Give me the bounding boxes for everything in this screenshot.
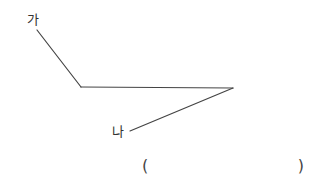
segment-horizontal <box>81 87 233 88</box>
answer-input-area[interactable] <box>154 155 292 177</box>
segment-right-vertex-to-na <box>130 88 233 131</box>
open-parenthesis: ( <box>142 155 148 177</box>
point-label-ga: 가 <box>27 13 39 26</box>
answer-blank: ( ) <box>142 155 308 177</box>
segment-ga-to-left-vertex <box>37 30 81 87</box>
point-label-na: 나 <box>112 125 124 138</box>
close-parenthesis: ) <box>298 155 304 177</box>
